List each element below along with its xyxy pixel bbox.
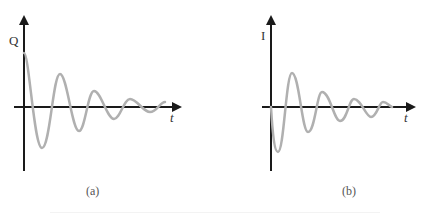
faint-caption-strip xyxy=(50,212,380,213)
chart-panel-a: Q t (a) xyxy=(9,17,180,198)
caption-a: (a) xyxy=(86,184,99,198)
damped-curve-b xyxy=(271,73,392,152)
x-axis-label-b: t xyxy=(404,110,408,125)
x-axis-label-a: t xyxy=(170,110,174,125)
damped-curve-a xyxy=(24,53,165,148)
figure: Q t (a) I t (b) xyxy=(0,0,426,218)
chart-panel-b: I t (b) xyxy=(261,17,414,198)
y-axis-label-a: Q xyxy=(9,33,19,48)
y-axis-label-b: I xyxy=(261,28,265,43)
caption-b: (b) xyxy=(342,184,356,198)
